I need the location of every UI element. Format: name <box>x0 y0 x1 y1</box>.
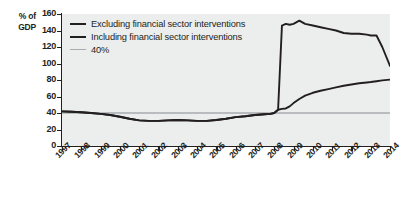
legend-item-excluding: Excluding financial sector interventions <box>70 17 245 30</box>
chart-legend: Excluding financial sector interventions… <box>70 17 245 56</box>
chart-figure: % of GDP 160140120100806040200 199719981… <box>0 0 406 199</box>
y-tick-140: 140 <box>32 25 56 35</box>
y-tick-20: 20 <box>32 124 56 134</box>
line-excluding-financial-sector <box>62 80 390 121</box>
legend-swatch-including <box>70 36 86 38</box>
legend-label-excluding: Excluding financial sector interventions <box>91 19 245 29</box>
legend-item-including: Including financial sector interventions <box>70 30 245 43</box>
y-tick-160: 160 <box>32 8 56 18</box>
y-tick-60: 60 <box>32 91 56 101</box>
legend-swatch-40pct <box>70 49 86 50</box>
y-tick-120: 120 <box>32 41 56 51</box>
y-axis-line <box>61 13 62 147</box>
legend-swatch-excluding <box>70 23 86 25</box>
legend-label-including: Including financial sector interventions <box>91 32 242 42</box>
y-tick-80: 80 <box>32 74 56 84</box>
legend-item-40pct: 40% <box>70 43 245 56</box>
y-tick-40: 40 <box>32 107 56 117</box>
legend-label-40pct: 40% <box>91 45 109 55</box>
y-tick-100: 100 <box>32 58 56 68</box>
y-tick-0: 0 <box>32 140 56 150</box>
